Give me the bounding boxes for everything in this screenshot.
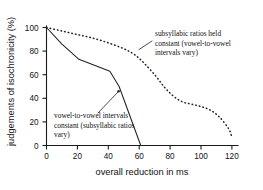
y-tick-label-40: 40 xyxy=(29,94,39,103)
annotation-solid-line-2: constant (subsyllabic ratios xyxy=(54,121,135,130)
x-tick-label-20: 20 xyxy=(73,152,83,161)
y-tick-label-0: 0 xyxy=(34,142,39,151)
x-tick-label-80: 80 xyxy=(166,152,176,161)
chart-figure: judgements of isochronicity (%) 0 20 40 … xyxy=(0,0,263,190)
y-axis-title: judgements of isochronicity (%) xyxy=(6,17,16,147)
x-tick-label-120: 120 xyxy=(225,152,239,161)
annotation-dotted-line-3: intervals vary) xyxy=(155,48,198,57)
x-tick-label-60: 60 xyxy=(135,152,145,161)
y-tick-label-60: 60 xyxy=(29,71,39,80)
x-axis-ticks xyxy=(47,146,232,150)
y-tick-label-80: 80 xyxy=(29,47,39,56)
y-tick-label-100: 100 xyxy=(25,24,39,33)
leader-line-dotted xyxy=(139,41,152,50)
y-axis-tick-labels: 0 20 40 60 80 100 xyxy=(25,24,39,151)
annotation-dotted-leader xyxy=(139,41,152,50)
annotation-solid-leader xyxy=(98,90,120,113)
annotation-dotted-line-2: constant (vowel-to-vowel xyxy=(155,39,231,48)
leader-dot-solid xyxy=(117,90,120,93)
x-tick-label-100: 100 xyxy=(194,152,208,161)
x-tick-label-0: 0 xyxy=(44,152,49,161)
x-axis-tick-labels: 0 20 40 60 80 100 120 xyxy=(44,152,239,161)
x-axis-title: overall reduction in ms xyxy=(95,167,188,177)
annotation-solid-text: vowel-to-vowel intervals constant (subsy… xyxy=(54,111,135,139)
chart-canvas: judgements of isochronicity (%) 0 20 40 … xyxy=(0,0,263,190)
annotation-dotted-text: subsyllabic ratios held constant (vowel-… xyxy=(155,29,231,57)
annotation-dotted-line-1: subsyllabic ratios held xyxy=(155,29,221,38)
x-tick-label-40: 40 xyxy=(104,152,114,161)
annotation-solid-line-3: vary) xyxy=(54,130,70,139)
y-axis-ticks xyxy=(43,28,47,146)
leader-line-solid xyxy=(98,92,118,113)
annotation-solid-line-1: vowel-to-vowel intervals xyxy=(54,111,128,120)
y-tick-label-20: 20 xyxy=(29,118,39,127)
